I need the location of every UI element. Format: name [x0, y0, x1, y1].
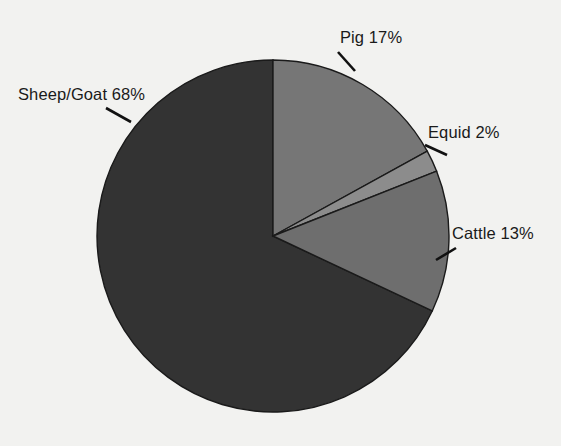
leader-line-pig [338, 52, 355, 71]
pie-label-equid: Equid 2% [428, 123, 499, 142]
leader-line-sheep-goat [106, 108, 131, 122]
pie-chart-graphic [0, 0, 561, 446]
pie-label-pig: Pig 17% [340, 28, 402, 47]
pie-label-sheep-goat: Sheep/Goat 68% [18, 85, 145, 104]
pie-label-cattle: Cattle 13% [452, 224, 534, 243]
pie-chart-page: Pig 17% Sheep/Goat 68% Equid 2% Cattle 1… [0, 0, 561, 446]
